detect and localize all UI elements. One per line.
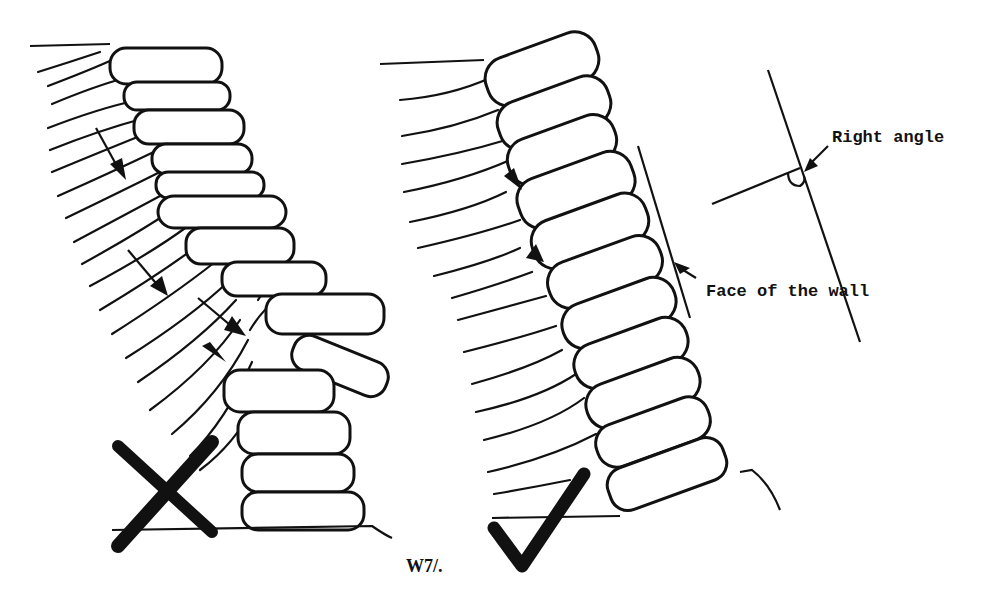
figure-caption: W7/. xyxy=(406,556,443,576)
face-of-wall-label: Face of the wall xyxy=(706,282,869,301)
incorrect-wall-panel xyxy=(30,44,393,546)
right-angle-inset xyxy=(712,70,860,342)
retaining-wall-diagram: Right angle Face of the wall W7/. xyxy=(0,0,1004,602)
right-angle-label: Right angle xyxy=(832,128,944,147)
stones-right xyxy=(479,26,732,516)
check-mark xyxy=(494,474,584,566)
stones-left xyxy=(110,48,393,530)
cross-mark xyxy=(118,442,212,546)
